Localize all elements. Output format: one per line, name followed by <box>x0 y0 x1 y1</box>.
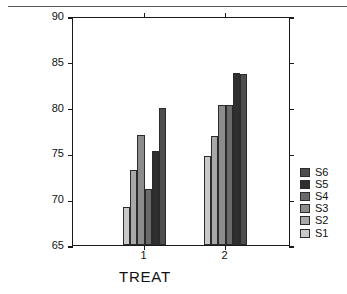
bar-s3-group1 <box>137 135 144 245</box>
y-tick-label: 75 <box>24 147 64 159</box>
y-tick-mark <box>68 246 73 247</box>
legend-label: S1 <box>315 228 328 239</box>
y-tick-mark-right <box>289 246 294 247</box>
x-tick-mark-top <box>144 13 145 18</box>
y-tick-mark-right <box>289 109 294 110</box>
legend-label: S6 <box>315 167 328 178</box>
legend-label: S5 <box>315 179 328 190</box>
y-tick-mark <box>68 109 73 110</box>
bar-s5-group2 <box>233 73 240 245</box>
y-tick-mark-right <box>289 63 294 64</box>
y-tick-label: 65 <box>24 239 64 251</box>
bar-s4-group1 <box>145 189 152 245</box>
bar-s2-group2 <box>211 136 218 245</box>
legend-swatch-icon <box>300 216 310 225</box>
bar-s2-group1 <box>130 170 137 245</box>
legend-item-s4: S4 <box>300 190 328 202</box>
legend-label: S2 <box>315 215 328 226</box>
legend-swatch-icon <box>300 229 310 238</box>
bar-s3-group2 <box>218 105 225 245</box>
x-tick-label: 1 <box>132 249 156 261</box>
legend-item-s1: S1 <box>300 227 328 239</box>
bar-s5-group1 <box>152 151 159 245</box>
y-tick-label: 80 <box>24 102 64 114</box>
legend-item-s6: S6 <box>300 166 328 178</box>
y-tick-mark <box>68 201 73 202</box>
bar-s4-group2 <box>226 105 233 245</box>
plot-area <box>72 17 290 246</box>
y-tick-mark <box>68 63 73 64</box>
x-tick-label: 2 <box>213 249 237 261</box>
top-divider <box>8 6 347 7</box>
legend-item-s2: S2 <box>300 215 328 227</box>
bar-s1-group1 <box>123 207 130 245</box>
legend-swatch-icon <box>300 168 310 177</box>
legend-swatch-icon <box>300 192 310 201</box>
y-tick-mark <box>68 155 73 156</box>
x-tick-mark-top <box>225 13 226 18</box>
legend-label: S3 <box>315 203 328 214</box>
y-tick-label: 90 <box>24 10 64 22</box>
legend-item-s3: S3 <box>300 203 328 215</box>
y-tick-label: 85 <box>24 56 64 68</box>
bar-s6-group1 <box>159 108 166 245</box>
bar-s1-group2 <box>204 156 211 245</box>
y-tick-mark-right <box>289 201 294 202</box>
legend: S6S5S4S3S2S1 <box>300 166 328 239</box>
legend-swatch-icon <box>300 180 310 189</box>
bar-chart-figure: 908580757065 12 SCORE TREAT S6S5S4S3S2S1 <box>0 0 347 294</box>
legend-item-s5: S5 <box>300 178 328 190</box>
y-tick-mark-right <box>289 155 294 156</box>
legend-label: S4 <box>315 191 328 202</box>
y-tick-mark-right <box>289 17 294 18</box>
legend-swatch-icon <box>300 204 310 213</box>
y-tick-mark <box>68 17 73 18</box>
x-axis-title: TREAT <box>0 268 290 285</box>
y-tick-label: 70 <box>24 193 64 205</box>
bar-s6-group2 <box>240 74 247 245</box>
